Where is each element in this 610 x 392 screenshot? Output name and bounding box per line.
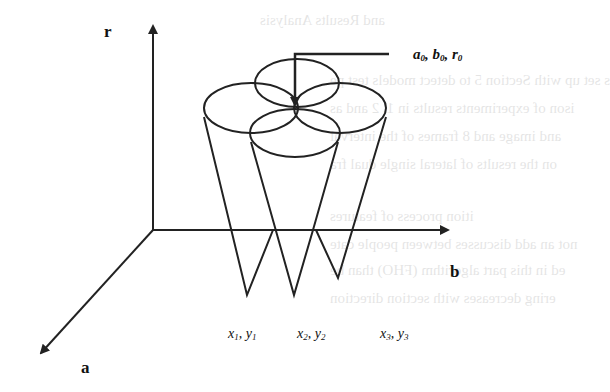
a-axis: [41, 230, 153, 353]
apex-coordinates-label: a0, b0, r0: [413, 46, 462, 63]
a-axis-label: a: [81, 358, 90, 378]
b-axis-label: b: [450, 262, 459, 282]
apex-leader-line: [295, 54, 389, 104]
cone-2: [251, 142, 338, 295]
cone-3: [316, 117, 386, 278]
cone-1: [204, 117, 273, 295]
point-3-label: x3, y3: [380, 326, 408, 342]
point-1-label: x1, y1: [228, 326, 256, 342]
right-ellipse: [294, 83, 386, 133]
r-axis-label: r: [104, 22, 112, 42]
point-2-label: x2, y2: [297, 326, 325, 342]
